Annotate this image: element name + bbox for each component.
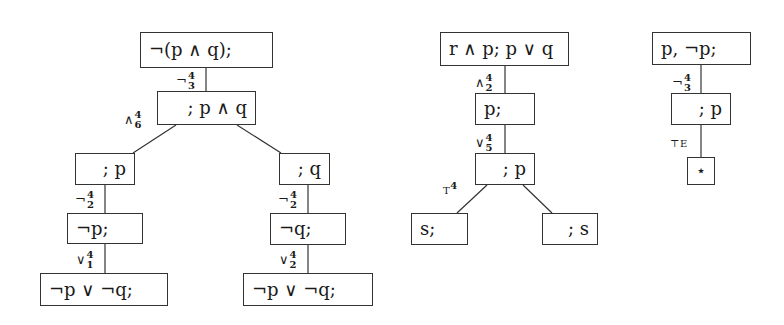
node-t2-left: s;: [411, 213, 468, 245]
edge-t1-n2-right: [237, 125, 281, 153]
edge-label-t3-neg3: ¬43: [672, 73, 691, 93]
edge-t2-n3-right: [523, 185, 552, 213]
node-t2-n3: ; p: [475, 153, 535, 185]
edge-label-t3-top-e: ⊤E: [670, 136, 688, 149]
node-t3-leaf-star: ⋆: [687, 157, 715, 185]
node-t1-right-neg: ¬q;: [270, 213, 346, 245]
node-t1-right: ; q: [279, 153, 330, 185]
node-t2-n2: p;: [475, 93, 535, 125]
node-t3-n2: ; p: [671, 93, 731, 125]
node-t2-right: ; s: [542, 213, 598, 245]
edge-t2-n3-left: [457, 185, 487, 213]
edge-label-t2-and2: ∧42: [475, 73, 492, 93]
node-t1-left: ; p: [75, 153, 135, 185]
node-t1-n2: ; p ∧ q: [157, 91, 256, 125]
edge-label-t2-top4: T4: [443, 181, 457, 196]
node-t2-root: r ∧ p; p ∨ q: [440, 32, 569, 66]
node-t1-left-or: ¬p ∨ ¬q;: [40, 273, 168, 306]
edge-label-t1-left-neg2: ¬42: [75, 190, 94, 210]
edge-label-t1-left-or1: ∨41: [76, 250, 93, 270]
edge-label-t1-and6: ∧46: [124, 110, 141, 130]
edge-label-t1-right-neg2: ¬42: [278, 190, 297, 210]
edge-label-t1-neg3: ¬43: [176, 71, 195, 91]
node-t1-root: ¬(p ∧ q);: [140, 32, 273, 68]
edge-label-t2-or5: ∨45: [475, 133, 492, 153]
node-t1-left-neg: ¬p;: [67, 213, 143, 244]
node-t1-right-or: ¬p ∨ ¬q;: [243, 273, 373, 306]
edge-label-t1-right-or2: ∨42: [279, 250, 296, 270]
node-t3-root: p, ¬p;: [652, 32, 751, 65]
